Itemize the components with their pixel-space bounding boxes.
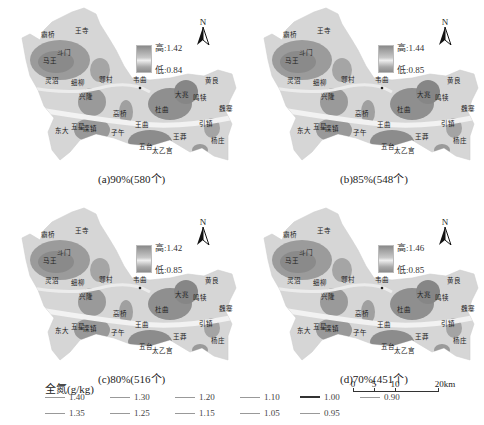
legend-value: 0.95 [324, 408, 340, 418]
place-label: 黄良 [205, 275, 219, 285]
legend-item: 1.05 [240, 408, 280, 418]
place-label: 魏寨 [219, 103, 233, 113]
legend-value: 1.15 [199, 408, 215, 418]
legend-value: 1.25 [134, 408, 150, 418]
place-label: 兴隆 [79, 91, 93, 101]
place-label: 鄠村 [99, 274, 113, 284]
legend-value: 1.40 [69, 392, 85, 402]
map-panel-a: 高:1.42 低:0.84 N (a)90%(580个) 霸桥王寺斗门马王灵沼细… [0, 0, 242, 180]
legend-item: 1.00 [300, 392, 340, 402]
ramp-low-label: 低:0.85 [397, 63, 424, 76]
place-label: 高桥 [355, 308, 369, 318]
place-label: 东大 [55, 325, 69, 335]
place-label: 马王 [43, 255, 57, 265]
map-panel-c: 高:1.42 低:0.85 N (c)80%(516个) 霸桥王寺斗门马王灵沼细… [0, 200, 242, 380]
north-arrow-icon [438, 27, 452, 45]
place-label: 灵沼 [287, 75, 301, 85]
legend-value: 1.05 [264, 408, 280, 418]
place-label: 滦镇 [325, 323, 339, 333]
contour-line-swatch [175, 397, 195, 398]
place-label: 杨庄 [211, 135, 225, 145]
place-label: 杜曲 [397, 304, 411, 314]
contour-line-swatch [110, 397, 130, 398]
place-label: 杨庄 [211, 335, 225, 345]
legend-value: 1.20 [199, 392, 215, 402]
legend-item: 1.25 [110, 408, 150, 418]
north-arrow-icon [196, 227, 210, 245]
place-label: 引镇 [441, 118, 455, 128]
place-label: 王莽 [173, 331, 187, 341]
place-label: 高桥 [113, 308, 127, 318]
place-label: 斗门 [57, 247, 71, 257]
contour-line-swatch [45, 413, 65, 414]
contour-line-swatch [110, 413, 130, 414]
place-label: 马王 [285, 55, 299, 65]
north-label: N [438, 218, 452, 227]
ramp-high-label: 高:1.46 [397, 241, 424, 254]
place-label: 太乙宫 [152, 345, 173, 355]
place-label: 王曲 [135, 119, 149, 129]
north-arrow: N [196, 218, 210, 249]
place-label: 王莽 [415, 331, 429, 341]
place-label: 斗门 [299, 47, 313, 57]
place-label: 灵沼 [45, 275, 59, 285]
contour-line-swatch [175, 413, 195, 414]
legend-item: 0.95 [300, 408, 340, 418]
place-label: 鄠村 [99, 74, 113, 84]
place-label: 杨庄 [453, 335, 467, 345]
contour-line-swatch [240, 397, 260, 398]
place-label: 细柳 [71, 77, 85, 87]
contour-line-swatch [300, 396, 320, 398]
place-label: 黄良 [447, 75, 461, 85]
place-label: 霸桥 [283, 29, 297, 39]
north-arrow: N [196, 18, 210, 49]
legend-item: 1.35 [45, 408, 85, 418]
place-label: 魏寨 [461, 303, 475, 313]
north-arrow-icon [196, 27, 210, 45]
place-label: 杜曲 [397, 104, 411, 114]
place-label: 斗门 [57, 47, 71, 57]
legend-value: 1.00 [324, 392, 340, 402]
place-label: 东大 [297, 125, 311, 135]
place-label: 鸣犊 [193, 292, 207, 302]
place-label: 魏寨 [219, 303, 233, 313]
place-label: 大兆 [417, 89, 431, 99]
north-label: N [438, 18, 452, 27]
legend-value: 1.30 [134, 392, 150, 402]
place-label: 引镇 [199, 318, 213, 328]
ramp-high-label: 高:1.42 [155, 41, 182, 54]
place-label: 霸桥 [41, 29, 55, 39]
ramp-high-label: 高:1.44 [397, 41, 424, 54]
place-label: 鄠村 [341, 74, 355, 84]
place-label: 细柳 [313, 277, 327, 287]
scale-tick-mark [353, 388, 354, 392]
place-label: 杨庄 [453, 135, 467, 145]
place-label: 引镇 [199, 118, 213, 128]
place-label: 马王 [43, 55, 57, 65]
ramp-low-label: 低:0.85 [397, 263, 424, 276]
place-label: 兴隆 [79, 291, 93, 301]
north-label: N [196, 218, 210, 227]
color-ramp [136, 245, 152, 273]
map-panel-b: 高:1.44 低:0.85 N (b)85%(548个) 霸桥王寺斗门马王灵沼细… [242, 0, 484, 180]
place-label: 王曲 [377, 119, 391, 129]
place-label: 黄良 [205, 75, 219, 85]
place-label: 杜曲 [155, 104, 169, 114]
place-label: 韦曲 [133, 74, 147, 84]
north-arrow-icon [438, 227, 452, 245]
place-label: 细柳 [313, 77, 327, 87]
scale-tick-mark [374, 388, 375, 392]
panel-caption: (c)80%(516个) [98, 370, 165, 386]
legend-item: 1.15 [175, 408, 215, 418]
place-label: 斗门 [299, 247, 313, 257]
place-label: 鄠村 [341, 274, 355, 284]
place-label: 太乙宫 [152, 145, 173, 155]
north-arrow: N [438, 218, 452, 249]
place-label: 引镇 [441, 318, 455, 328]
place-label: 高桥 [355, 108, 369, 118]
place-label: 杜曲 [155, 304, 169, 314]
ramp-high-label: 高:1.42 [155, 241, 182, 254]
legend-item: 1.40 [45, 392, 85, 402]
place-label: 王寺 [75, 225, 89, 235]
place-label: 子午 [111, 327, 125, 337]
